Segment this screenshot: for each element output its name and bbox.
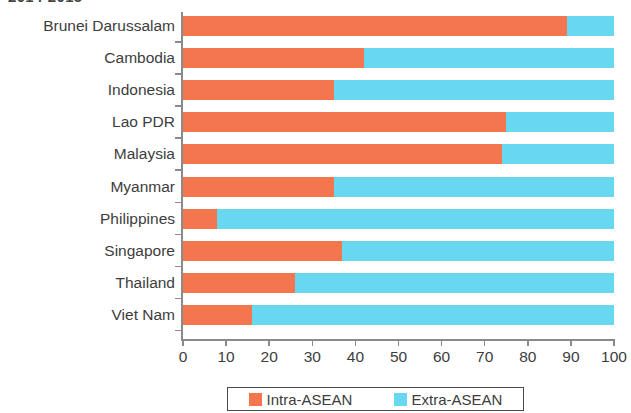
y-axis-tick bbox=[175, 137, 181, 139]
category-label: Singapore bbox=[0, 241, 175, 261]
bar-segment-intra-asean bbox=[183, 48, 364, 68]
bar-row: Indonesia bbox=[0, 80, 631, 100]
bar-segment-intra-asean bbox=[183, 80, 334, 100]
bar-segment-extra-asean bbox=[506, 112, 614, 132]
category-label: Cambodia bbox=[0, 48, 175, 68]
bar-segment-intra-asean bbox=[183, 273, 295, 293]
y-axis-tick bbox=[175, 73, 181, 75]
category-label: Indonesia bbox=[0, 80, 175, 100]
x-axis-tick bbox=[225, 340, 227, 346]
y-axis-tick bbox=[175, 202, 181, 204]
bar-row: Thailand bbox=[0, 273, 631, 293]
bar-segment-extra-asean bbox=[567, 16, 614, 36]
bar-row: Malaysia bbox=[0, 144, 631, 164]
bar-row: Lao PDR bbox=[0, 112, 631, 132]
bar-segment-extra-asean bbox=[295, 273, 614, 293]
bar-segment-extra-asean bbox=[334, 80, 614, 100]
chart-legend: Intra-ASEANExtra-ASEAN bbox=[227, 387, 524, 411]
bar-track bbox=[183, 48, 614, 68]
bar-segment-extra-asean bbox=[502, 144, 614, 164]
legend-entry: Intra-ASEAN bbox=[249, 391, 353, 408]
category-label: Malaysia bbox=[0, 144, 175, 164]
bar-row: Brunei Darussalam bbox=[0, 16, 631, 36]
bar-track bbox=[183, 144, 614, 164]
bar-segment-intra-asean bbox=[183, 112, 506, 132]
bar-row: Myanmar bbox=[0, 177, 631, 197]
legend-swatch-icon bbox=[249, 393, 262, 406]
stacked-bar-chart: 2014-2015 Brunei DarussalamCambodiaIndon… bbox=[0, 0, 631, 413]
bar-row: Singapore bbox=[0, 241, 631, 261]
x-axis-tick bbox=[182, 340, 184, 346]
legend-label: Extra-ASEAN bbox=[412, 391, 503, 408]
legend-label: Intra-ASEAN bbox=[267, 391, 353, 408]
bar-track bbox=[183, 112, 614, 132]
legend-entry: Extra-ASEAN bbox=[394, 391, 503, 408]
bar-segment-extra-asean bbox=[342, 241, 614, 261]
category-label: Viet Nam bbox=[0, 305, 175, 325]
bar-track bbox=[183, 273, 614, 293]
y-axis-tick bbox=[175, 298, 181, 300]
bar-track bbox=[183, 16, 614, 36]
bar-segment-extra-asean bbox=[252, 305, 614, 325]
bar-segment-intra-asean bbox=[183, 241, 342, 261]
y-axis-tick bbox=[175, 266, 181, 268]
bar-track bbox=[183, 305, 614, 325]
category-label: Brunei Darussalam bbox=[0, 16, 175, 36]
bar-segment-intra-asean bbox=[183, 177, 334, 197]
chart-title: 2014-2015 bbox=[8, 0, 82, 4]
bar-track bbox=[183, 241, 614, 261]
x-axis-tick bbox=[613, 340, 615, 346]
x-axis-tick bbox=[484, 340, 486, 346]
category-label: Lao PDR bbox=[0, 112, 175, 132]
x-axis-tick bbox=[527, 340, 529, 346]
bar-segment-extra-asean bbox=[217, 209, 614, 229]
x-axis-tick-label: 100 bbox=[584, 348, 631, 366]
y-axis-tick bbox=[175, 105, 181, 107]
bar-segment-extra-asean bbox=[364, 48, 614, 68]
bar-row: Philippines bbox=[0, 209, 631, 229]
bar-track bbox=[183, 177, 614, 197]
category-label: Thailand bbox=[0, 273, 175, 293]
y-axis-tick bbox=[175, 41, 181, 43]
category-label: Philippines bbox=[0, 209, 175, 229]
x-axis-tick bbox=[312, 340, 314, 346]
y-axis-tick bbox=[175, 234, 181, 236]
y-axis-tick bbox=[175, 330, 181, 332]
legend-swatch-icon bbox=[394, 393, 407, 406]
bar-segment-intra-asean bbox=[183, 209, 217, 229]
y-axis-tick bbox=[175, 169, 181, 171]
x-axis-tick bbox=[268, 340, 270, 346]
bar-segment-intra-asean bbox=[183, 144, 502, 164]
bar-track bbox=[183, 80, 614, 100]
x-axis-tick bbox=[398, 340, 400, 346]
x-axis-tick bbox=[570, 340, 572, 346]
bar-segment-extra-asean bbox=[334, 177, 614, 197]
bar-track bbox=[183, 209, 614, 229]
category-label: Myanmar bbox=[0, 177, 175, 197]
bar-segment-intra-asean bbox=[183, 305, 252, 325]
x-axis-tick bbox=[441, 340, 443, 346]
bar-row: Viet Nam bbox=[0, 305, 631, 325]
x-axis-tick bbox=[355, 340, 357, 346]
bar-row: Cambodia bbox=[0, 48, 631, 68]
bar-segment-intra-asean bbox=[183, 16, 567, 36]
